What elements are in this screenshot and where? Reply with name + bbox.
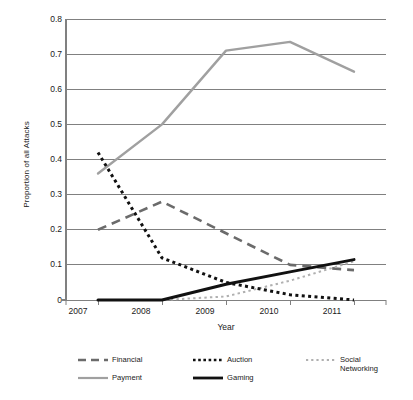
legend-item-social-networking: Social Networking <box>306 355 378 373</box>
solid-gray-swatch-icon <box>78 373 108 382</box>
series-line-payment <box>98 42 354 174</box>
legend-label-social-networking: Social Networking <box>340 355 378 373</box>
x-tick-label-2009: 2009 <box>180 307 230 316</box>
series-line-auction <box>98 152 354 300</box>
y-tick-label-0.8: 0.8 <box>22 15 62 24</box>
y-tick-label-0.2: 0.2 <box>22 225 62 234</box>
legend-label-gaming: Gaming <box>227 373 254 382</box>
x-tick-label-2010: 2010 <box>244 307 294 316</box>
y-tick-label-0.1: 0.1 <box>22 260 62 269</box>
y-tick-label-0.6: 0.6 <box>22 85 62 94</box>
x-tick-label-2007: 2007 <box>53 307 103 316</box>
legend-item-payment: Payment <box>78 373 142 382</box>
legend-label-auction: Auction <box>227 355 252 364</box>
y-axis-title: Proportion of all Attacks <box>22 95 31 235</box>
plot-svg <box>66 19 386 300</box>
dotted-swatch-icon <box>193 355 223 364</box>
legend-item-auction: Auction <box>193 355 252 364</box>
series-line-financial <box>98 202 354 270</box>
x-axis-title: Year <box>66 322 386 332</box>
gridlines <box>66 19 386 300</box>
x-tick-label-2011: 2011 <box>307 307 357 316</box>
x-tick-label-2008: 2008 <box>116 307 166 316</box>
y-tick-label-0.3: 0.3 <box>22 190 62 199</box>
series-line-gaming <box>98 260 354 300</box>
y-tick-label-0.5: 0.5 <box>22 120 62 129</box>
y-tick-label-0: 0 <box>22 296 62 305</box>
data-series-layer <box>98 42 354 300</box>
legend-label-financial: Financial <box>112 355 142 364</box>
y-tick-label-0.7: 0.7 <box>22 50 62 59</box>
plot-area <box>66 19 386 300</box>
solid-black-swatch-icon <box>193 373 223 382</box>
long-dash-swatch-icon <box>78 355 108 364</box>
chart-figure: Proportion of all Attacks 0.8 0.7 0.6 0.… <box>0 0 413 400</box>
chart-legend: Financial Auction Social Networking <box>78 355 398 391</box>
y-tick-label-0.4: 0.4 <box>22 155 62 164</box>
fine-dotted-swatch-icon <box>306 355 336 364</box>
legend-label-payment: Payment <box>112 373 142 382</box>
legend-item-financial: Financial <box>78 355 142 364</box>
legend-item-gaming: Gaming <box>193 373 254 382</box>
